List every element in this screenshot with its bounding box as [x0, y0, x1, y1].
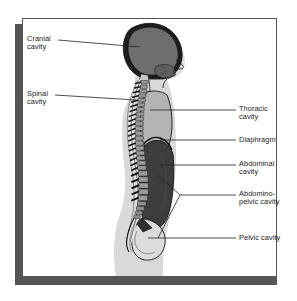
label-diaphragm: Diaphragm [239, 136, 276, 144]
label-abdominal-cavity: Abdominal cavity [239, 160, 274, 177]
label-thoracic-cavity: Thoracic cavity [239, 105, 268, 122]
body-cavities-figure: Cranial cavity Spinal cavity Thoracic ca… [0, 0, 297, 301]
label-cranial-cavity: Cranial cavity [27, 35, 51, 52]
label-spinal-cavity: Spinal cavity [27, 90, 48, 107]
skull [123, 23, 183, 88]
label-pelvic-cavity: Pelvic cavity [239, 234, 280, 242]
label-abdominopelvic-cavity: Abdomino- pelvic cavity [239, 190, 280, 207]
